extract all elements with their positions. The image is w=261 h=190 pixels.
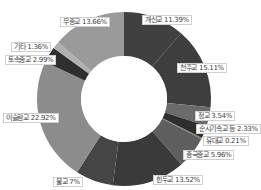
slice-label: 불교 7%	[53, 177, 83, 187]
slice-label: 중국종교 5.96%	[183, 150, 234, 160]
slice-label: 천주교 15.11%	[177, 63, 227, 73]
donut-chart	[0, 0, 261, 190]
donut-hole	[81, 56, 167, 142]
slice-label: 이슬람교 22.92%	[3, 113, 59, 123]
slice-label: 기타 1.36%	[11, 42, 51, 52]
slice-label: 힌두교 13.52%	[153, 175, 203, 185]
slice-label: 무종교 13.66%	[60, 17, 110, 27]
slice-label: 개신교 11.39%	[142, 15, 192, 25]
slice-label: 정교 3.54%	[195, 111, 235, 121]
slice-label: 순시기속교 등 2.33%	[196, 124, 261, 134]
slice-label: 유대교 0.21%	[203, 136, 249, 146]
slice-label: 토속종교 2.99%	[5, 55, 56, 65]
